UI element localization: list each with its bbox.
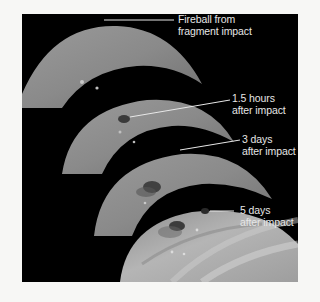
panel-fireball-arc bbox=[22, 26, 202, 108]
label-5-days: 5 days after impact bbox=[240, 204, 294, 228]
label-fireball-line2: fragment impact bbox=[178, 25, 252, 37]
label-fireball: Fireball from fragment impact bbox=[178, 14, 252, 37]
label-5-days-line2: after impact bbox=[240, 216, 294, 228]
label-fireball-line1: Fireball from bbox=[178, 14, 252, 25]
jupiter-impact-figure: Fireball from fragment impact 1.5 hours … bbox=[22, 14, 298, 282]
label-3-days: 3 days after impact bbox=[242, 133, 296, 157]
label-1-5-hours-line2: after impact bbox=[232, 104, 286, 116]
callout-line-3-days bbox=[180, 140, 240, 150]
label-3-days-line1: 3 days bbox=[242, 133, 296, 145]
label-1-5-hours-line1: 1.5 hours bbox=[232, 92, 286, 104]
label-1-5-hours: 1.5 hours after impact bbox=[232, 92, 286, 116]
label-5-days-line1: 5 days bbox=[240, 204, 294, 216]
label-3-days-line2: after impact bbox=[242, 145, 296, 157]
